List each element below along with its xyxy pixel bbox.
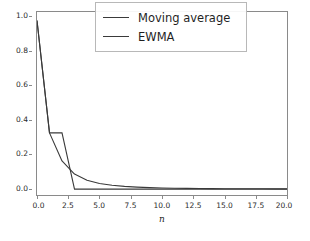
y-tick-mark <box>29 154 32 155</box>
y-tick-label: 0.8 <box>16 47 28 55</box>
y-tick-label: 0.6 <box>16 81 28 89</box>
y-tick-label: 0.2 <box>16 150 28 158</box>
legend: Moving average EWMA <box>95 2 247 52</box>
legend-entry-moving-average: Moving average <box>103 8 239 27</box>
y-tick-mark <box>29 85 32 86</box>
x-tick-label: 12.5 <box>185 202 202 210</box>
y-axis-ticks: 0.0 0.2 0.4 0.6 0.8 1.0 <box>0 11 32 196</box>
y-tick-mark <box>29 189 32 190</box>
x-tick-label: 10.0 <box>154 202 171 210</box>
x-tick-mark <box>193 196 194 199</box>
x-tick-mark <box>225 196 226 199</box>
x-tick-mark <box>287 196 288 199</box>
x-axis-label: n <box>36 214 288 224</box>
legend-label: Moving average <box>138 11 230 25</box>
y-tick-label: 1.0 <box>16 12 28 20</box>
legend-line-swatch-icon <box>103 17 129 18</box>
x-tick-mark <box>68 196 69 199</box>
y-tick-label: 0.4 <box>16 116 28 124</box>
x-tick-mark <box>162 196 163 199</box>
y-tick-mark <box>29 120 32 121</box>
y-tick-label: 0.0 <box>16 185 28 193</box>
x-tick-label: 2.5 <box>62 202 74 210</box>
x-tick-mark <box>99 196 100 199</box>
x-tick-label: 15.0 <box>216 202 233 210</box>
x-tick-mark <box>131 196 132 199</box>
legend-entry-ewma: EWMA <box>103 27 239 46</box>
x-tick-label: 17.5 <box>248 202 265 210</box>
chart-figure: 0.0 0.2 0.4 0.6 0.8 1.0 0.0 2.5 5.0 7.5 … <box>0 0 310 241</box>
y-tick-mark <box>29 51 32 52</box>
x-tick-label: 5.0 <box>93 202 105 210</box>
x-tick-label: 7.5 <box>125 202 137 210</box>
legend-label: EWMA <box>138 30 174 44</box>
x-tick-mark <box>37 196 38 199</box>
y-tick-mark <box>29 16 32 17</box>
x-tick-label: 20.0 <box>276 202 293 210</box>
x-axis-ticks: 0.0 2.5 5.0 7.5 10.0 12.5 15.0 17.5 20.0 <box>36 196 288 212</box>
x-tick-mark <box>256 196 257 199</box>
legend-line-swatch-icon <box>103 36 129 37</box>
x-tick-label: 0.0 <box>33 202 45 210</box>
